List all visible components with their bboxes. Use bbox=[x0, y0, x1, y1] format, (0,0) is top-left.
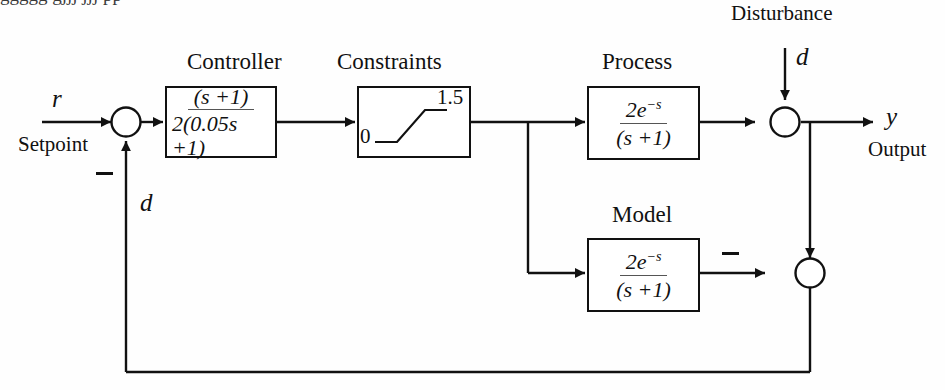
model-error-sum-minus-sign bbox=[722, 252, 739, 255]
model-numerator-exponent: −s bbox=[646, 248, 661, 264]
controller-transfer-function: (s +1) 2(0.05s +1) bbox=[167, 85, 275, 158]
model-block[interactable]: 2e−s (s +1) bbox=[587, 238, 700, 312]
disturbance-symbol-label: d bbox=[796, 44, 809, 69]
feedback-symbol-label: d bbox=[140, 190, 153, 215]
process-transfer-function: 2e−s (s +1) bbox=[611, 97, 676, 149]
process-numerator-exponent: −s bbox=[646, 96, 661, 112]
model-title: Model bbox=[612, 203, 672, 226]
constraints-upper-limit: 1.5 bbox=[437, 87, 463, 108]
controller-block[interactable]: (s +1) 2(0.05s +1) bbox=[165, 86, 277, 158]
constraints-title: Constraints bbox=[337, 50, 442, 73]
controller-denominator: 2(0.05s +1) bbox=[172, 111, 237, 159]
controller-numerator: (s +1) bbox=[194, 84, 249, 109]
output-symbol-label: y bbox=[886, 104, 897, 129]
block-diagram-canvas: ggggg gjjj jjj pp bbox=[0, 0, 945, 390]
process-numerator-base: 2e bbox=[626, 98, 647, 123]
model-numerator-base: 2e bbox=[626, 250, 647, 275]
process-denominator: (s +1) bbox=[616, 125, 671, 150]
model-denominator: (s +1) bbox=[616, 277, 671, 302]
model-transfer-function: 2e−s (s +1) bbox=[611, 249, 676, 301]
summing-junction-error bbox=[112, 108, 141, 137]
controller-title: Controller bbox=[187, 50, 282, 73]
setpoint-word-label: Setpoint bbox=[18, 134, 88, 155]
disturbance-word-label: Disturbance bbox=[731, 3, 832, 24]
process-title: Process bbox=[602, 50, 672, 73]
error-sum-minus-sign bbox=[96, 172, 113, 175]
setpoint-symbol-label: r bbox=[52, 86, 62, 111]
process-block[interactable]: 2e−s (s +1) bbox=[587, 86, 700, 160]
constraints-lower-limit: 0 bbox=[360, 126, 371, 147]
summing-junction-output bbox=[771, 108, 800, 137]
summing-junction-model-error bbox=[796, 259, 825, 288]
output-word-label: Output bbox=[868, 139, 926, 160]
